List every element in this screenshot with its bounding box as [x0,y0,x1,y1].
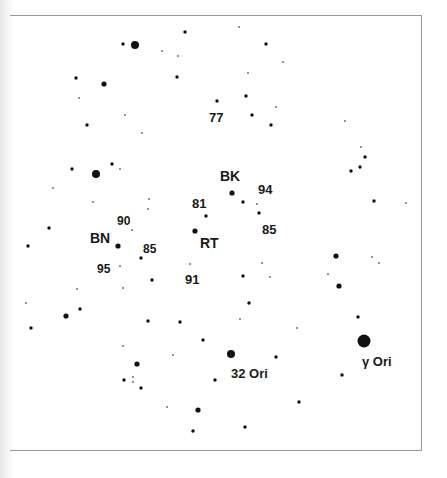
star-icon [148,198,150,200]
star-icon [29,326,32,329]
star-icon [78,97,80,99]
star-icon [378,262,380,264]
star-icon [213,378,216,381]
star-icon [131,41,139,49]
star-icon [122,378,125,381]
star-icon [297,400,300,403]
star-label: BN [90,230,110,246]
star-icon [227,350,235,358]
star-icon [183,30,186,33]
star-label: γ Ori [362,354,392,369]
star-icon [74,76,77,79]
star-icon [239,318,241,320]
star-icon [52,187,54,189]
star-icon [119,168,121,170]
star-icon [63,313,68,318]
star-icon [269,276,271,278]
star-icon [256,203,258,205]
star-icon [121,42,124,45]
star-icon [178,320,181,323]
star-icon [92,170,100,178]
star-icon [115,243,120,248]
star-icon [275,106,277,108]
star-icon [215,99,218,102]
star-icon [141,132,143,134]
star-icon [150,278,153,281]
stars-layer [25,26,407,433]
star-icon [175,75,178,78]
star-icon [161,50,163,52]
star-icon [356,315,359,318]
star-icon [371,256,373,258]
star-icon [139,256,142,259]
star-label: 90 [117,214,131,228]
star-icon [47,226,50,229]
star-icon [340,373,343,376]
star-icon [333,253,338,258]
star-label: RT [200,235,219,251]
star-icon [192,228,197,233]
star-icon [241,274,244,277]
star-icon [195,407,200,412]
star-icon [189,263,191,265]
star-icon [191,429,194,432]
star-label: 94 [258,182,273,197]
star-icon [25,302,27,304]
star-icon [264,42,267,45]
star-icon [282,61,284,63]
star-icon [257,211,260,214]
star-icon [363,155,366,158]
star-icon [147,208,149,210]
star-icon [172,354,174,356]
star-icon [85,123,88,126]
star-icon [349,169,352,172]
star-icon [177,55,179,57]
star-icon [134,361,139,366]
star-field: 77BK948185RT9190BN859532 Oriγ Ori [0,0,447,478]
star-icon [119,265,121,267]
star-icon [296,327,298,329]
star-icon [101,81,106,86]
star-icon [358,165,361,168]
star-icon [360,146,362,148]
star-icon [229,190,234,195]
star-icon [122,287,124,289]
star-icon [26,244,29,247]
star-icon [274,355,277,358]
star-label: 85 [143,242,157,256]
star-icon [241,200,244,203]
star-icon [327,273,329,275]
star-icon [405,202,407,204]
star-icon [92,201,94,203]
star-label: 91 [185,272,199,287]
star-icon [247,301,250,304]
star-icon [344,120,346,122]
star-icon [204,214,207,217]
star-icon [372,199,375,202]
labels-layer: 77BK948185RT9190BN859532 Oriγ Ori [90,110,392,381]
star-icon [124,114,126,116]
star-icon [78,307,81,310]
star-label: 81 [192,196,206,211]
star-icon [238,26,240,28]
star-icon [261,262,263,264]
star-icon [250,113,253,116]
star-icon [110,162,113,165]
star-icon [166,406,168,408]
star-label: 77 [209,110,223,125]
star-icon [358,335,371,348]
star-icon [132,376,134,378]
star-label: 32 Ori [231,366,268,381]
star-icon [244,94,247,97]
star-icon [139,386,142,389]
star-icon [131,229,133,231]
star-icon [146,319,149,322]
star-icon [243,425,246,428]
star-label: BK [220,168,240,184]
star-icon [201,338,204,341]
star-label: 85 [262,222,276,237]
star-icon [269,123,272,126]
star-icon [122,345,124,347]
star-icon [70,167,73,170]
star-icon [336,283,341,288]
